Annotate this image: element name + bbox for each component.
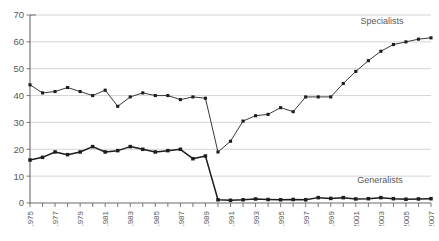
data-point-specialists <box>54 90 57 93</box>
data-point-generalists <box>254 197 258 201</box>
x-tick-label: 2007 <box>427 210 436 226</box>
series-line-specialists <box>30 38 431 152</box>
x-tick-label: 1995 <box>277 210 286 226</box>
data-point-specialists <box>79 90 82 93</box>
data-point-generalists <box>66 153 70 157</box>
data-point-specialists <box>166 94 169 97</box>
data-point-specialists <box>342 82 345 85</box>
series-label-generalists: Generalists <box>357 175 403 185</box>
x-tick-label: 1979 <box>76 210 85 226</box>
series-line-generalists <box>30 147 431 201</box>
data-point-specialists <box>329 95 332 98</box>
x-tick-label: 1975 <box>26 210 35 226</box>
x-tick-label: 1999 <box>327 210 336 226</box>
x-tick-label: 2001 <box>352 210 361 226</box>
data-point-specialists <box>267 113 270 116</box>
x-tick-label: 1981 <box>101 210 110 226</box>
data-point-specialists <box>129 95 132 98</box>
data-point-generalists <box>216 198 220 202</box>
data-point-specialists <box>379 50 382 53</box>
x-tick-label: 1997 <box>302 210 311 226</box>
x-tick-label: 1989 <box>202 210 211 226</box>
y-tick-label: 0 <box>19 197 24 208</box>
data-point-specialists <box>317 95 320 98</box>
data-point-generalists <box>342 196 346 200</box>
data-point-specialists <box>28 83 31 86</box>
data-point-generalists <box>78 150 82 154</box>
line-chart: 0102030405060701975197719791981198319851… <box>0 0 439 226</box>
data-point-specialists <box>279 106 282 109</box>
data-point-specialists <box>229 140 232 143</box>
data-point-generalists <box>191 157 195 161</box>
data-point-specialists <box>154 94 157 97</box>
x-tick-label: 1993 <box>252 210 261 226</box>
series-label-specialists: Specialists <box>360 16 404 26</box>
data-point-specialists <box>429 36 432 39</box>
data-point-specialists <box>254 114 257 117</box>
x-tick-label: 1977 <box>51 210 60 226</box>
data-point-specialists <box>354 70 357 73</box>
data-point-specialists <box>241 120 244 123</box>
data-point-generalists <box>304 198 308 202</box>
data-point-generalists <box>266 198 270 202</box>
data-point-specialists <box>116 105 119 108</box>
data-point-specialists <box>204 97 207 100</box>
data-point-generalists <box>279 198 283 202</box>
y-tick-label: 60 <box>13 36 24 47</box>
data-point-generalists <box>417 197 421 201</box>
data-point-generalists <box>179 148 183 152</box>
data-point-generalists <box>53 150 57 154</box>
data-point-generalists <box>166 149 170 153</box>
data-point-specialists <box>179 98 182 101</box>
y-tick-label: 50 <box>13 63 24 74</box>
x-tick-label: 2005 <box>402 210 411 226</box>
data-point-generalists <box>429 197 433 201</box>
data-point-generalists <box>129 145 133 149</box>
data-point-generalists <box>204 154 208 158</box>
figure-caption <box>0 228 439 241</box>
data-point-specialists <box>292 110 295 113</box>
y-tick-label: 70 <box>13 9 24 20</box>
x-tick-label: 1987 <box>177 210 186 226</box>
data-point-specialists <box>141 91 144 94</box>
y-tick-label: 40 <box>13 90 24 101</box>
data-point-generalists <box>41 156 45 160</box>
data-point-generalists <box>392 197 396 201</box>
data-point-generalists <box>404 197 408 201</box>
data-point-generalists <box>91 145 95 149</box>
data-point-specialists <box>367 59 370 62</box>
data-point-specialists <box>104 89 107 92</box>
y-tick-label: 20 <box>13 144 24 155</box>
x-tick-label: 1985 <box>152 210 161 226</box>
data-point-generalists <box>229 199 233 203</box>
data-point-generalists <box>116 149 120 153</box>
data-point-generalists <box>154 150 158 154</box>
data-point-generalists <box>103 150 107 154</box>
x-tick-label: 1991 <box>227 210 236 226</box>
data-point-generalists <box>28 158 32 162</box>
y-tick-label: 30 <box>13 117 24 128</box>
data-point-specialists <box>404 40 407 43</box>
data-point-specialists <box>91 94 94 97</box>
data-point-specialists <box>392 43 395 46</box>
data-point-generalists <box>379 196 383 200</box>
data-point-generalists <box>367 197 371 201</box>
data-point-specialists <box>417 38 420 41</box>
y-tick-label: 10 <box>13 171 24 182</box>
data-point-specialists <box>304 95 307 98</box>
data-point-generalists <box>141 148 145 152</box>
data-point-specialists <box>66 86 69 89</box>
data-point-generalists <box>329 197 333 201</box>
data-point-generalists <box>291 198 295 202</box>
x-tick-label: 2003 <box>377 210 386 226</box>
chart-figure: 0102030405060701975197719791981198319851… <box>0 0 439 241</box>
data-point-specialists <box>216 150 219 153</box>
data-point-generalists <box>316 196 320 200</box>
data-point-specialists <box>41 91 44 94</box>
data-point-specialists <box>191 95 194 98</box>
data-point-generalists <box>241 198 245 202</box>
x-tick-label: 1983 <box>126 210 135 226</box>
data-point-generalists <box>354 197 358 201</box>
